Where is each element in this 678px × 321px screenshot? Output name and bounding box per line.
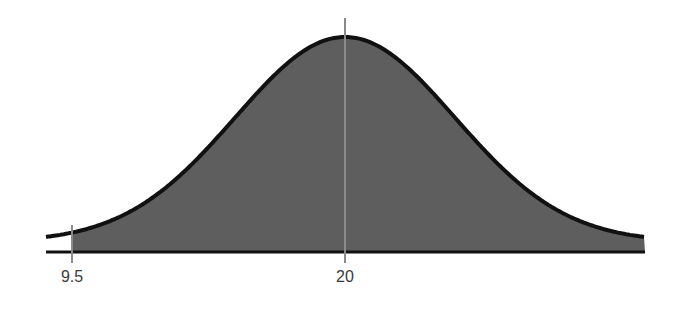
tick-label-9-5: 9.5 <box>61 268 83 286</box>
tick-label-20: 20 <box>336 268 354 286</box>
shaded-area <box>72 37 645 252</box>
